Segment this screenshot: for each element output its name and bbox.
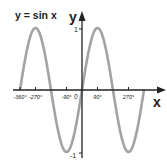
chart-title: y = sin x [15, 9, 57, 21]
x-axis-arrow-icon [157, 87, 166, 94]
x-tick-label: 90° [93, 94, 102, 100]
y-axis-arrow-icon [79, 11, 86, 21]
y-axis-label: y [69, 9, 77, 25]
x-axis-label: x [153, 94, 161, 110]
x-tick-label: 270° [122, 94, 135, 100]
x-tick-label: -270° [29, 94, 43, 100]
y-tick-label-neg1: -1 [70, 152, 76, 159]
origin-label: 0 [74, 93, 78, 100]
x-tick-label: -90° [61, 94, 72, 100]
sine-chart: -360°-270°-90°90°270° 1 -1 y = sin x y x… [0, 0, 167, 167]
y-tick-label-1: 1 [74, 26, 78, 33]
x-tick-label: -360° [13, 94, 27, 100]
